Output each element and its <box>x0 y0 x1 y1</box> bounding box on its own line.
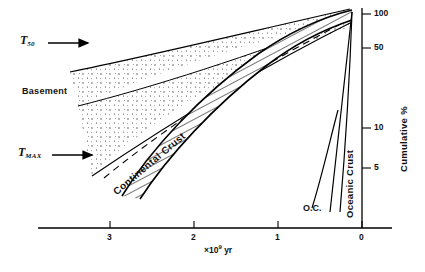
x-axis-title: ×109 yr <box>204 244 232 255</box>
y-tick-5: 5 <box>374 162 379 172</box>
oceanic-crust-label: Oceanic Crust <box>344 150 355 218</box>
x-tick-1: 1 <box>275 232 280 242</box>
x-tick-3: 3 <box>107 232 112 242</box>
y-axis-title: Cumulative % <box>398 106 409 172</box>
basement-label: Basement <box>22 86 67 96</box>
y-tick-10: 10 <box>374 122 383 132</box>
figure-canvas: T50 TMAX Basement Continental Crust Ocea… <box>0 0 425 272</box>
x-tick-2: 2 <box>191 232 196 242</box>
x-tick-0: 0 <box>359 232 364 242</box>
oc-short-label: O.C. <box>303 203 322 213</box>
y-tick-100: 100 <box>374 8 388 18</box>
y-tick-50: 50 <box>374 42 383 52</box>
t50-label: T50 <box>20 33 35 48</box>
tmax-label: TMAX <box>18 145 42 160</box>
